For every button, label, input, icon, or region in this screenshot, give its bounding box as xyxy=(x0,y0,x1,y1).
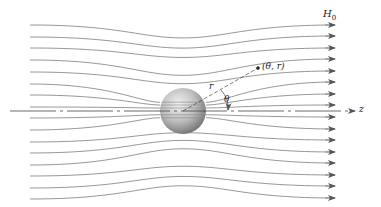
theta-label: θ xyxy=(224,94,229,104)
radius-label: r xyxy=(209,81,213,91)
point-label: (θ, r) xyxy=(262,61,284,71)
field-line xyxy=(30,149,335,165)
field-line xyxy=(30,186,335,199)
sphere-in-uniform-field-diagram xyxy=(0,0,381,207)
field-line xyxy=(30,176,335,188)
field-line xyxy=(30,140,335,153)
field-label-h0: H0 xyxy=(323,8,336,22)
field-line xyxy=(30,25,335,38)
field-line xyxy=(30,71,335,84)
field-point-dot xyxy=(256,66,260,70)
field-line xyxy=(30,48,335,57)
field-line xyxy=(30,166,335,176)
z-axis-label: z xyxy=(359,104,364,114)
